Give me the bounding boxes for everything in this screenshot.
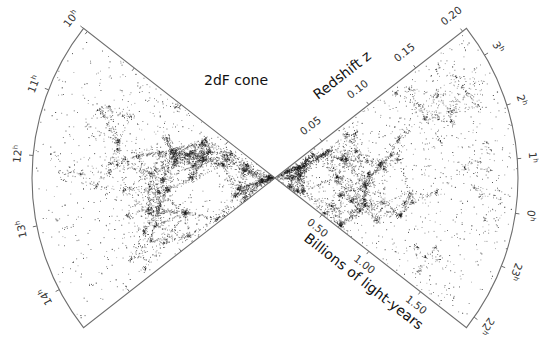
distance-tick <box>320 215 322 218</box>
redshift-tick <box>320 139 322 142</box>
axis-ticks <box>29 26 521 320</box>
hour-label: 12h <box>10 145 24 164</box>
left-upper-tick <box>85 31 87 34</box>
cone-outline <box>32 28 518 327</box>
redshift-tick-label: 0.10 <box>344 77 370 101</box>
hour-label: 22h <box>477 316 497 337</box>
left-upper-tick <box>226 141 228 144</box>
hour-tick <box>501 266 505 267</box>
hour-label: 11h <box>25 74 43 95</box>
diagram-title: 2dF cone <box>204 72 268 88</box>
hour-tick <box>507 104 511 105</box>
hour-tick <box>474 317 477 319</box>
right-fan-outline <box>275 28 518 327</box>
distance-tick <box>367 251 369 254</box>
axis-labels: 0.050.100.150.200.501.001.5010h11h12h13h… <box>10 4 539 338</box>
redshift-axis-title: Redshift z <box>310 47 374 102</box>
left-lower-tick <box>127 289 129 292</box>
cone-diagram: 0.050.100.150.200.501.001.5010h11h12h13h… <box>0 0 552 348</box>
redshift-tick-label: 0.05 <box>297 114 323 138</box>
left-lower-tick <box>179 249 181 252</box>
redshift-tick <box>367 102 369 105</box>
hour-label: 3h <box>490 39 506 55</box>
redshift-tick-label: 0.15 <box>391 40 417 64</box>
hour-label: 10h <box>61 8 81 29</box>
hour-label: 2h <box>515 93 530 107</box>
redshift-tick <box>461 29 463 32</box>
left-upper-tick <box>132 68 134 71</box>
hour-tick <box>45 88 49 89</box>
hour-tick <box>515 213 519 214</box>
redshift-tick <box>414 65 416 68</box>
hour-label: 0h <box>525 209 538 222</box>
redshift-tick-label: 0.20 <box>438 4 464 28</box>
left-upper-tick <box>179 105 181 108</box>
hour-tick <box>33 226 37 227</box>
distance-tick <box>418 292 420 295</box>
hour-tick <box>56 290 60 292</box>
hour-label: 13h <box>13 219 28 239</box>
hour-label: 14h <box>36 286 55 307</box>
hour-label: 23h <box>508 261 526 282</box>
hour-tick <box>80 26 83 28</box>
left-lower-tick <box>226 212 228 215</box>
hour-tick <box>485 53 488 55</box>
hour-label: 1h <box>527 151 540 163</box>
